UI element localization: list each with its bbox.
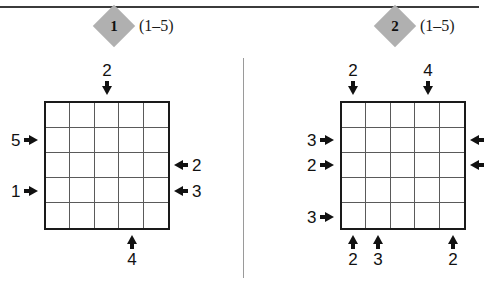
arrow-left-icon [470,159,484,172]
table-row[interactable] [119,128,143,153]
puzzle-2-clue-left-row3: 2 [307,154,334,176]
puzzle-1-diamond-icon: 1 [93,5,135,47]
table-row[interactable] [366,153,390,178]
puzzle-2-range-note: (1–5) [420,17,455,35]
puzzle-1-range-note: (1–5) [139,17,174,35]
puzzle-2-clue-top-col4: 4 [415,62,441,95]
arrow-down-icon [101,81,114,95]
table-row[interactable] [46,153,70,178]
arrow-down-icon [347,81,360,95]
table-row[interactable] [391,153,415,178]
table-row[interactable] [366,178,390,203]
table-row[interactable] [119,153,143,178]
puzzle-2-grid[interactable] [340,101,466,230]
table-row[interactable] [342,153,366,178]
table-row[interactable] [342,128,366,153]
puzzle-1-number: 1 [99,11,129,41]
arrow-right-icon [24,134,38,147]
puzzle-2-clue-bottom-col1: 2 [340,235,366,268]
puzzle-2-clue-right-row2 [470,129,488,151]
clue-value: 3 [373,251,382,268]
puzzle-2-clue-left-row2: 3 [307,129,334,151]
clue-value: 2 [448,251,457,268]
table-row[interactable] [415,203,439,228]
clue-value: 2 [348,251,357,268]
table-row[interactable] [144,128,168,153]
table-row[interactable] [70,178,94,203]
table-row[interactable] [391,128,415,153]
puzzle-1-clue-bottom-col4: 4 [119,235,145,268]
puzzle-2-badge-group: 2 (1–5) [380,11,455,41]
table-row[interactable] [415,128,439,153]
table-row[interactable] [440,178,464,203]
table-row[interactable] [119,103,143,128]
table-row[interactable] [95,103,119,128]
table-row[interactable] [144,178,168,203]
puzzle-1-clue-left-row2: 5 [11,129,38,151]
table-row[interactable] [46,178,70,203]
table-row[interactable] [95,178,119,203]
table-row[interactable] [415,103,439,128]
arrow-left-icon [174,185,188,198]
table-row[interactable] [391,178,415,203]
arrow-up-icon [126,235,139,249]
table-row[interactable] [440,128,464,153]
table-row[interactable] [440,103,464,128]
table-row[interactable] [415,153,439,178]
arrow-left-icon [174,159,188,172]
table-row[interactable] [366,203,390,228]
table-row[interactable] [70,153,94,178]
table-row[interactable] [144,103,168,128]
arrow-right-icon [320,134,334,147]
puzzle-1-clue-right-row4: 3 [174,180,201,202]
clue-value: 3 [307,132,316,149]
puzzle-1-clue-right-row3: 2 [174,154,201,176]
table-row[interactable] [366,103,390,128]
table-row[interactable] [70,128,94,153]
table-row[interactable] [415,178,439,203]
puzzle-1-grid[interactable] [44,101,170,230]
clue-value: 4 [423,62,432,79]
arrow-up-icon [372,235,385,249]
table-row[interactable] [342,178,366,203]
puzzle-1-clue-left-row4: 1 [11,180,38,202]
arrow-right-icon [320,211,334,224]
arrow-up-icon [447,235,460,249]
table-row[interactable] [440,203,464,228]
table-row[interactable] [342,203,366,228]
clue-value: 4 [127,251,136,268]
puzzle-1-clue-top-col3: 2 [94,62,120,95]
table-row[interactable] [95,128,119,153]
table-row[interactable] [119,203,143,228]
table-row[interactable] [70,203,94,228]
clue-value: 3 [307,209,316,226]
table-row[interactable] [391,203,415,228]
table-row[interactable] [119,178,143,203]
table-row[interactable] [342,103,366,128]
table-row[interactable] [46,203,70,228]
table-row[interactable] [70,103,94,128]
arrow-right-icon [24,185,38,198]
arrow-left-icon [470,134,484,147]
puzzle-2-number: 2 [380,11,410,41]
table-row[interactable] [391,103,415,128]
table-row[interactable] [95,153,119,178]
puzzle-2-clue-bottom-col2: 3 [365,235,391,268]
clue-value: 2 [192,157,201,174]
clue-value: 2 [307,157,316,174]
table-row[interactable] [366,128,390,153]
table-row[interactable] [95,203,119,228]
puzzle-1-badge-group: 1 (1–5) [99,11,174,41]
table-row[interactable] [144,153,168,178]
puzzle-2-clue-top-col1: 2 [340,62,366,95]
clue-value: 3 [192,183,201,200]
clue-value: 2 [102,62,111,79]
clue-value: 2 [348,62,357,79]
table-row[interactable] [46,103,70,128]
arrow-down-icon [422,81,435,95]
arrow-right-icon [320,159,334,172]
table-row[interactable] [440,153,464,178]
table-row[interactable] [144,203,168,228]
table-row[interactable] [46,128,70,153]
arrow-up-icon [347,235,360,249]
